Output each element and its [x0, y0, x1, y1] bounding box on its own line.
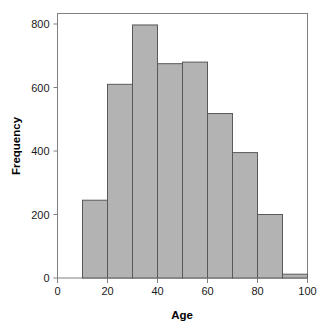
histogram-chart: 10-20: 24520-30: 61030-40: 79740-50: 675… [0, 0, 324, 328]
y-axis-tick-label: 200 [31, 209, 49, 221]
y-axis-tick-label: 0 [43, 272, 49, 284]
y-axis-tick-label: 400 [31, 145, 49, 157]
x-axis-tick-label: 60 [201, 285, 213, 297]
y-axis-title: Frequency [10, 116, 22, 175]
histogram-bar: 20-30: 610 [108, 84, 133, 278]
x-axis-tick-label: 40 [151, 285, 163, 297]
histogram-bar: 50-60: 680 [183, 62, 208, 278]
histogram-bar: 70-80: 395 [233, 153, 258, 278]
histogram-bar: 30-40: 797 [133, 25, 158, 278]
histogram-bar: 10-20: 245 [83, 200, 108, 278]
x-axis-tick-label: 20 [101, 285, 113, 297]
histogram-bar: 60-70: 518 [208, 114, 233, 278]
histogram-bar: 40-50: 675 [158, 64, 183, 278]
histogram-figure: 10-20: 24520-30: 61030-40: 79740-50: 675… [0, 0, 324, 328]
y-axis-tick-label: 600 [31, 82, 49, 94]
x-axis-title: Age [171, 309, 193, 321]
histogram-bar: 80-90: 200 [258, 215, 283, 279]
x-axis-tick-label: 80 [251, 285, 263, 297]
histogram-bar: 90-100: 12 [283, 274, 308, 278]
x-axis-tick-label: 0 [54, 285, 60, 297]
y-axis-tick-label: 800 [31, 18, 49, 30]
x-axis-tick-label: 100 [298, 285, 316, 297]
